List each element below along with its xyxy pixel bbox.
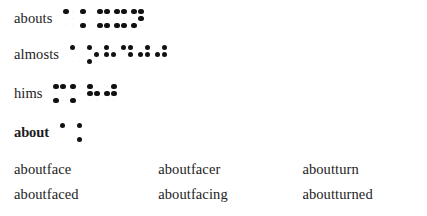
compound-word: aboutfaced <box>14 186 158 203</box>
braille-dot-1 <box>59 122 66 129</box>
entry-headword: abouts <box>14 11 52 26</box>
braille-dot-4 <box>66 122 73 129</box>
braille-dot-6 <box>83 136 90 143</box>
braille-dot-3 <box>103 58 110 65</box>
braille-dot-4 <box>120 8 127 15</box>
braille-dot-6 <box>137 22 144 29</box>
braille-dot-5 <box>77 90 84 97</box>
braille-dot-3 <box>62 22 69 29</box>
braille-transcription <box>69 44 171 65</box>
braille-dot-1 <box>76 122 83 129</box>
compound-word: aboutfacer <box>158 161 302 178</box>
braille-dot-6 <box>110 58 117 65</box>
braille-dot-4 <box>83 122 90 129</box>
braille-dot-3 <box>154 58 161 65</box>
braille-dot-2 <box>120 51 127 58</box>
braille-dot-6 <box>66 136 73 143</box>
braille-dot-4 <box>103 8 110 15</box>
word-row: aboutfaceaboutfaceraboutturn <box>14 157 414 182</box>
braille-dot-2 <box>59 129 66 136</box>
braille-dot-3 <box>59 136 66 143</box>
braille-dot-4 <box>144 44 151 51</box>
braille-cell <box>69 44 83 65</box>
braille-dot-3 <box>104 97 111 104</box>
braille-dot-1 <box>130 8 137 15</box>
braille-dot-5 <box>103 15 110 22</box>
braille-transcription <box>59 122 93 143</box>
braille-cell <box>120 44 134 65</box>
braille-entry-row: abouts <box>14 8 147 29</box>
braille-dot-2 <box>137 51 144 58</box>
braille-dot-2 <box>86 51 93 58</box>
braille-dot-3 <box>86 58 93 65</box>
braille-dot-5 <box>110 51 117 58</box>
braille-cell <box>62 8 76 29</box>
compound-word: aboutturn <box>302 161 414 178</box>
braille-dot-3 <box>53 97 60 104</box>
braille-dot-2 <box>103 51 110 58</box>
braille-dot-6 <box>77 97 84 104</box>
braille-dot-3 <box>79 22 86 29</box>
braille-dot-1 <box>120 44 127 51</box>
braille-dot-3 <box>137 58 144 65</box>
braille-dot-1 <box>62 8 69 15</box>
braille-entry-row: almosts <box>14 44 171 65</box>
braille-dot-6 <box>94 97 101 104</box>
braille-dot-5 <box>76 51 83 58</box>
braille-dot-5 <box>86 15 93 22</box>
braille-dot-6 <box>161 58 168 65</box>
braille-dot-2 <box>154 51 161 58</box>
braille-dot-5 <box>144 51 151 58</box>
entry-headword: hims <box>14 86 43 101</box>
braille-dot-5 <box>93 51 100 58</box>
braille-dot-3 <box>113 22 120 29</box>
braille-dot-6 <box>103 22 110 29</box>
braille-dot-5 <box>83 129 90 136</box>
braille-cell <box>70 83 84 104</box>
braille-dot-1 <box>70 83 77 90</box>
braille-dot-5 <box>60 90 67 97</box>
braille-dot-4 <box>93 44 100 51</box>
braille-dot-2 <box>53 90 60 97</box>
braille-dot-1 <box>154 44 161 51</box>
braille-dot-1 <box>86 44 93 51</box>
braille-dot-2 <box>62 15 69 22</box>
braille-transcription <box>53 83 121 104</box>
braille-dot-2 <box>87 90 94 97</box>
entry-headword: almosts <box>14 47 59 62</box>
braille-cell <box>53 83 67 104</box>
compound-word: aboutfacing <box>158 186 302 203</box>
braille-dot-6 <box>127 58 134 65</box>
braille-cell <box>59 122 73 143</box>
braille-dot-4 <box>137 8 144 15</box>
braille-dot-6 <box>120 22 127 29</box>
braille-dot-2 <box>113 15 120 22</box>
braille-dot-4 <box>76 44 83 51</box>
braille-dot-4 <box>111 83 118 90</box>
braille-cell <box>154 44 168 65</box>
compound-word: aboutface <box>14 161 158 178</box>
braille-cell <box>79 8 93 29</box>
compound-word: aboutturned <box>302 186 414 203</box>
braille-dot-1 <box>104 83 111 90</box>
braille-dot-2 <box>130 15 137 22</box>
braille-dot-1 <box>87 83 94 90</box>
braille-dot-4 <box>77 83 84 90</box>
braille-dot-5 <box>127 51 134 58</box>
braille-dot-3 <box>87 97 94 104</box>
braille-entry-row: hims <box>14 83 121 104</box>
braille-dot-6 <box>69 22 76 29</box>
braille-dot-6 <box>86 22 93 29</box>
braille-dot-5 <box>161 51 168 58</box>
braille-entry-row: about <box>14 122 93 143</box>
braille-cell <box>113 8 127 29</box>
word-row: aboutfacedaboutfacingaboutturned <box>14 182 414 207</box>
braille-dictionary-page: aboutfaceaboutfaceraboutturnaboutfacedab… <box>0 0 427 216</box>
braille-dot-5 <box>94 90 101 97</box>
braille-dot-4 <box>60 83 67 90</box>
braille-transcription <box>62 8 147 29</box>
braille-dot-1 <box>113 8 120 15</box>
braille-dot-4 <box>69 8 76 15</box>
braille-dot-6 <box>93 58 100 65</box>
braille-dot-2 <box>70 90 77 97</box>
